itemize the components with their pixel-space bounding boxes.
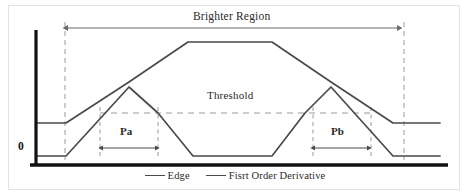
- legend: Edge Fisrt Order Derivative: [0, 170, 470, 181]
- edge-curve: [36, 42, 440, 123]
- line-swatch-icon: [206, 175, 226, 176]
- legend-item-first-order-derivative: Fisrt Order Derivative: [206, 170, 326, 181]
- y-axis-origin-label: 0: [18, 141, 24, 153]
- line-swatch-icon: [145, 175, 165, 176]
- pa-label: Pa: [120, 126, 132, 137]
- edge-detection-diagram: Brighter Region Threshold Pa Pb 0 Edge F…: [0, 0, 470, 196]
- legend-label-first-order-derivative: Fisrt Order Derivative: [229, 170, 326, 181]
- page-title: Brighter Region: [193, 11, 270, 23]
- pb-label: Pb: [331, 126, 344, 137]
- legend-label-edge: Edge: [168, 170, 190, 181]
- threshold-label: Threshold: [207, 90, 253, 101]
- legend-item-edge: Edge: [145, 170, 190, 181]
